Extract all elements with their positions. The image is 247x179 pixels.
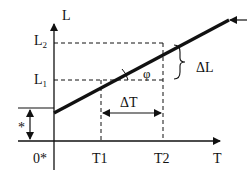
t1-label: T1 [92,151,108,166]
expansion-diagram: L T 0* L2 L1 T1 T2 ΔT ΔL φ * [0,0,247,179]
l1-label: L1 [34,72,47,89]
angle-label: φ [143,66,151,81]
delta-l-label: ΔL [196,60,214,75]
t2-label: T2 [154,151,170,166]
delta-t-label: ΔT [120,95,138,110]
offset-label: * [18,120,25,135]
y-axis-label: L [62,8,71,23]
x-axis-label: T [213,151,222,166]
l2-label: L2 [34,33,47,50]
origin-label: 0* [33,151,47,166]
